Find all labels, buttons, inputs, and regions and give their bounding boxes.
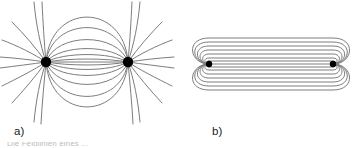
field-line-right-6 <box>128 62 172 86</box>
field-arc-upper-5 <box>46 55 128 63</box>
field-line-left-6 <box>2 62 46 86</box>
field-line-right-7 <box>128 62 162 103</box>
solenoid-field-diagram <box>179 0 358 148</box>
caption-strip: Die Feldlinien eines ... <box>0 142 358 148</box>
field-line-left-7 <box>12 62 46 103</box>
field-line-left-5 <box>0 62 46 68</box>
field-line-left-8 <box>34 62 46 122</box>
field-arc-upper-2 <box>46 28 128 63</box>
panel-b-label: b) <box>212 126 223 138</box>
panel-a-dipole: a) <box>0 0 179 148</box>
field-line-right-10 <box>128 2 132 62</box>
dipole-field-diagram <box>0 0 179 148</box>
field-line-right-8 <box>128 62 140 122</box>
left-pole-dot <box>41 57 51 67</box>
figure-caption: Die Feldlinien eines ... <box>7 142 88 148</box>
field-line-left-2 <box>12 22 46 62</box>
field-line-right-2 <box>128 22 162 62</box>
field-arc-lower-2 <box>46 62 128 97</box>
field-line-right-5 <box>128 62 174 68</box>
field-line-left-10 <box>42 2 46 62</box>
solenoid-right-node-dot <box>330 61 336 67</box>
figure-canvas: a) b) Die Feldlinien eines ... <box>0 0 358 148</box>
field-arc-lower-5 <box>46 62 128 70</box>
solenoid-left-node-dot <box>206 61 212 67</box>
right-pole-dot <box>123 57 133 67</box>
panel-a-label: a) <box>14 126 25 138</box>
panel-b-solenoid: b) <box>179 0 358 148</box>
